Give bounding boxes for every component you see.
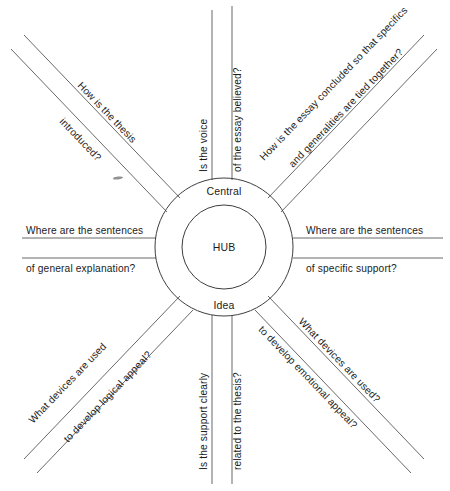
spoke-left-text-b: of general explanation? [26,263,136,274]
scan-smudge-artifact [113,176,123,180]
spoke-lines-right [293,238,443,258]
spoke-lines-bottom [212,315,232,484]
hub-label-central: Central [207,185,242,197]
hub-label-title: HUB [213,241,236,253]
spoke-top-text-a: Is the voice [198,118,209,172]
spoke-left-text-a: Where are the sentences [26,225,143,236]
hub-diagram-svg: Central HUB Idea Where are the sentences… [0,0,450,491]
spoke-bottom-text-b: related to the thesis? [232,372,243,470]
spoke-lower-left-line-a [24,296,180,459]
spoke-upper-left-text-b: introduced? [58,116,104,163]
spoke-upper-left-line-b [11,49,167,212]
spoke-lines-upper-left [11,35,180,212]
spoke-lower-right-line-a [268,296,424,459]
spoke-right-text-a: Where are the sentences [306,225,423,236]
spoke-right-text-b: of specific support? [306,263,397,274]
spoke-lower-left-text-b: to develop logical appeal? [62,349,154,445]
spoke-upper-left-line-a [24,35,180,198]
spoke-lines-lower-left [24,296,193,473]
spoke-upper-right-line-a [268,35,424,198]
spoke-lower-right-text-b: to develop emotional appeal? [257,324,360,431]
spoke-lines-top [212,6,232,180]
hub-label-idea: Idea [213,299,234,311]
spoke-lower-right-text-a: What devices are used? [297,316,383,405]
spoke-bottom-text-a: Is the support clearly [198,372,209,470]
spoke-upper-right-line-b [281,49,437,212]
hub-diagram-canvas: Central HUB Idea Where are the sentences… [0,0,450,491]
spoke-lower-right-line-b [255,310,411,473]
spoke-top-text-b: of the essay believed? [232,67,243,172]
spoke-lines-lower-right [255,296,424,473]
spoke-upper-right-text-a: How is the essay concluded so that speci… [258,5,410,163]
spoke-lines-left [22,238,156,258]
